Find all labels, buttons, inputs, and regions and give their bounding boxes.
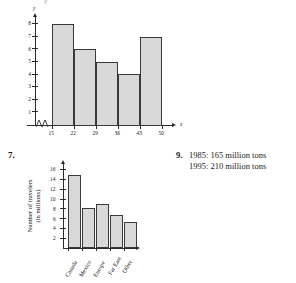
y-tick-label: 7 bbox=[22, 33, 31, 39]
chart-histogram-top: y x 8 7 6 5 4 3 2 1 15 bbox=[0, 0, 200, 140]
x-axis-name: x bbox=[180, 121, 182, 127]
y-axis-arrow bbox=[33, 13, 37, 17]
travelers-bar bbox=[82, 208, 95, 248]
x-tick bbox=[96, 125, 97, 129]
y-tick bbox=[32, 111, 38, 112]
y-tick bbox=[32, 86, 38, 87]
exercise-9-line2: 1995: 210 million tons bbox=[189, 161, 266, 171]
x-tick-label: 15 bbox=[49, 130, 54, 136]
x-tick-label: 29 bbox=[93, 130, 98, 136]
x-tick bbox=[118, 125, 119, 129]
y-tick bbox=[60, 199, 66, 200]
y-axis-arrow bbox=[61, 160, 65, 164]
x-tick-label: 43 bbox=[137, 130, 142, 136]
y-axis-name: y bbox=[33, 5, 35, 11]
x-tick bbox=[74, 125, 75, 129]
x-tick bbox=[96, 248, 97, 251]
y-tick bbox=[60, 169, 66, 170]
x-tick-label: 50 bbox=[159, 130, 164, 136]
x-tick bbox=[110, 248, 111, 251]
y-tick-label: 6 bbox=[22, 46, 31, 52]
y-tick-label: 10 bbox=[50, 196, 55, 202]
y-tick bbox=[32, 36, 38, 37]
travelers-bar bbox=[124, 222, 137, 248]
x-axis-arrow bbox=[172, 123, 176, 127]
y-tick-label: 2 bbox=[53, 235, 56, 241]
x-tick bbox=[52, 125, 53, 129]
histogram-bar bbox=[74, 49, 96, 126]
x-tick bbox=[124, 248, 125, 251]
travelers-bar bbox=[68, 175, 81, 248]
y-tick-label: 4 bbox=[22, 71, 31, 77]
x-category-label: Canada bbox=[64, 259, 78, 278]
histogram-bar bbox=[96, 62, 118, 126]
x-tick bbox=[68, 248, 69, 251]
histogram-bar bbox=[118, 74, 140, 126]
y-tick-label: 5 bbox=[22, 58, 31, 64]
y-tick-label: 2 bbox=[22, 96, 31, 102]
x-category-label: Far East bbox=[107, 256, 122, 276]
x-tick bbox=[140, 125, 141, 129]
y-tick-label: 12 bbox=[50, 186, 55, 192]
travelers-bar bbox=[110, 215, 123, 248]
x-tick-label: 36 bbox=[115, 130, 120, 136]
exercise-number-7: 7. bbox=[8, 150, 15, 160]
histogram-bar bbox=[52, 24, 74, 126]
y-tick-label: 8 bbox=[53, 206, 56, 212]
axis-break-zigzag bbox=[36, 118, 50, 128]
y-axis-title: Number of travelers (in millions) bbox=[26, 164, 42, 248]
y-axis-line bbox=[35, 17, 36, 125]
x-category-label: Other bbox=[121, 259, 133, 274]
y-tick bbox=[60, 189, 66, 190]
y-tick bbox=[32, 74, 38, 75]
x-tick-label: 22 bbox=[71, 130, 76, 136]
x-tick bbox=[162, 125, 163, 129]
x-category-label: Mexico bbox=[78, 259, 92, 278]
y-axis-title-line1: Number of travelers bbox=[26, 179, 33, 232]
y-tick bbox=[60, 208, 66, 209]
exercise-9-line1: 1985: 165 million tons bbox=[189, 150, 266, 160]
y-tick-label: 8 bbox=[22, 20, 31, 26]
y-tick-label: 16 bbox=[50, 166, 55, 172]
worksheet-page: e y x 8 7 6 5 4 3 2 1 bbox=[0, 0, 296, 283]
y-tick bbox=[60, 179, 66, 180]
y-tick bbox=[32, 61, 38, 62]
y-tick-label: 3 bbox=[22, 83, 31, 89]
histogram-bar bbox=[140, 37, 162, 126]
x-axis-line bbox=[63, 248, 137, 249]
y-tick bbox=[60, 228, 66, 229]
travelers-bar bbox=[96, 204, 109, 248]
y-tick-label: 14 bbox=[50, 176, 55, 182]
y-tick bbox=[60, 238, 66, 239]
y-tick-label: 4 bbox=[53, 225, 56, 231]
y-axis-title-line2: (in millions) bbox=[34, 190, 41, 223]
y-axis-line bbox=[63, 164, 64, 248]
chart-travelers: 7. Number of travelers (in millions) 16 … bbox=[0, 140, 160, 283]
y-tick-label: 1 bbox=[22, 109, 31, 115]
y-tick-label: 6 bbox=[53, 216, 56, 222]
y-tick bbox=[60, 218, 66, 219]
x-category-label: Europe bbox=[92, 260, 106, 278]
x-tick bbox=[82, 248, 83, 251]
y-tick bbox=[32, 99, 38, 100]
exercise-number-9: 9. bbox=[176, 150, 182, 160]
y-tick bbox=[32, 48, 38, 49]
y-tick bbox=[32, 23, 38, 24]
